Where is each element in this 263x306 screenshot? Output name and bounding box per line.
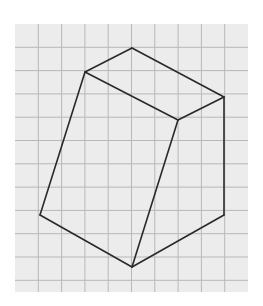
grid-figure-canvas [0, 0, 263, 306]
